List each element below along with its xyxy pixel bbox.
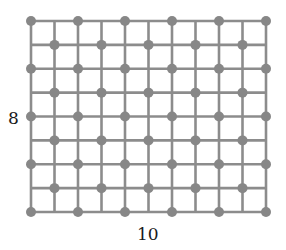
grid-dot (97, 135, 107, 145)
grid-dot (26, 159, 36, 169)
grid-dot (97, 40, 107, 50)
grid-dot (214, 112, 224, 122)
grid-dot (97, 88, 107, 98)
grid-dot (214, 16, 224, 26)
grid-dot (144, 183, 154, 193)
grid-dot (238, 135, 248, 145)
grid-dot (167, 207, 177, 217)
grid-dot (191, 88, 201, 98)
grid-dot (261, 64, 271, 74)
grid-dot (191, 40, 201, 50)
grid-dot (261, 112, 271, 122)
grid-dot (214, 207, 224, 217)
grid-diagram: 8 10 (0, 0, 286, 250)
grid-dot (144, 40, 154, 50)
grid-dot (238, 88, 248, 98)
grid-dot (238, 183, 248, 193)
width-label: 10 (137, 224, 159, 244)
grid-dot (167, 112, 177, 122)
grid-dot (167, 16, 177, 26)
grid-dot (50, 183, 60, 193)
grid-dot (26, 207, 36, 217)
grid-dot (120, 207, 130, 217)
grid-dot (261, 159, 271, 169)
grid-dot (167, 159, 177, 169)
grid-dot (261, 16, 271, 26)
grid-dot (73, 112, 83, 122)
grid-dot (167, 64, 177, 74)
grid-dot (238, 40, 248, 50)
grid-dot (26, 112, 36, 122)
grid-dot (191, 135, 201, 145)
grid-dot (191, 183, 201, 193)
grid-dot (120, 112, 130, 122)
grid-dot (144, 88, 154, 98)
grid-dot (214, 159, 224, 169)
grid-dot (144, 135, 154, 145)
grid-dot (26, 64, 36, 74)
grid-dot (120, 16, 130, 26)
grid-dot (26, 16, 36, 26)
grid-dot (73, 207, 83, 217)
grid-dot (261, 207, 271, 217)
grid-dot (50, 40, 60, 50)
grid-dot (97, 183, 107, 193)
height-label: 8 (8, 108, 19, 128)
grid-dot (50, 135, 60, 145)
grid-dot (214, 64, 224, 74)
grid-dot (73, 159, 83, 169)
grid-dot (50, 88, 60, 98)
grid-dot (73, 16, 83, 26)
grid-dot (73, 64, 83, 74)
grid-dot (120, 64, 130, 74)
grid-dot (120, 159, 130, 169)
